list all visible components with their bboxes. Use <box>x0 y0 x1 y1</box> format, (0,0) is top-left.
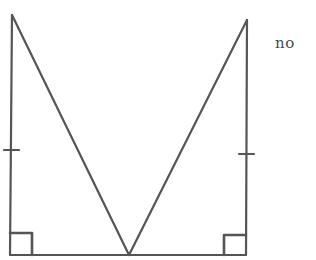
left-right-angle-marker <box>10 233 32 255</box>
answer-label: no <box>275 34 295 52</box>
right-right-angle-marker <box>224 235 246 255</box>
left-vertical-leg <box>10 15 12 255</box>
right-vertical-leg <box>246 20 247 255</box>
right-hypotenuse <box>129 20 247 255</box>
left-hypotenuse <box>12 15 129 255</box>
geometry-diagram <box>0 0 316 260</box>
